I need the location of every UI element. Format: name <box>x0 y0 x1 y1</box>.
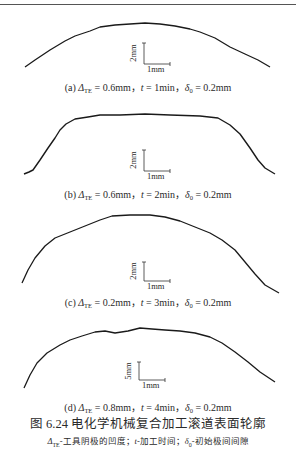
caption-a-delta-te-sub: TE <box>84 87 92 94</box>
caption-b: (b) ΔTE = 0.6mm，t = 2min，δ0 = 0.2mm <box>0 186 296 201</box>
profile-curve-b <box>24 114 275 174</box>
caption-c-t-value: = 3min， <box>144 297 185 308</box>
note-part3: -初始极间间隙 <box>192 436 249 446</box>
scale-label-vertical-b: 2mm <box>128 151 138 168</box>
figure-note: ΔTE-工具阴极的凹度；t-加工时间；δ0-初始极间间隙 <box>0 434 296 448</box>
scale-label-horizontal-b: 1mm <box>147 171 164 181</box>
caption-c-delta0-value: = 0.2mm <box>193 297 232 308</box>
caption-b-delta0-value: = 0.2mm <box>193 189 232 200</box>
profile-curve-a <box>25 23 270 67</box>
caption-d-t-value: = 4min， <box>144 402 185 413</box>
scale-label-horizontal-d: 1mm <box>142 380 159 390</box>
caption-b-delta-te-value: = 0.6mm， <box>92 189 141 200</box>
scale-label-horizontal-a: 1mm <box>147 64 164 74</box>
panel-b-graphics <box>24 114 275 174</box>
caption-d: (d) ΔTE = 0.8mm，t = 4min，δ0 = 0.2mm <box>0 399 296 414</box>
scale-label-vertical-a: 2mm <box>128 44 138 61</box>
caption-a: (a) ΔTE = 0.6mm，t = 1min，δ0 = 0.2mm <box>0 79 296 94</box>
panel-d-graphics <box>24 328 275 388</box>
scale-bar-b <box>142 150 170 173</box>
panel-a-graphics <box>25 23 270 67</box>
note-part1: -工具阴极的凹度； <box>60 436 135 446</box>
caption-d-label: (d) <box>64 402 76 413</box>
scale-bar-d <box>137 362 165 382</box>
caption-a-t-value: = 1min， <box>144 82 185 93</box>
scale-label-vertical-c: 2mm <box>128 262 138 279</box>
caption-c-delta-te-sub: TE <box>84 302 92 309</box>
caption-d-delta-te-value: = 0.8mm， <box>92 402 141 413</box>
caption-b-t-value: = 2min， <box>144 189 185 200</box>
note-part2: -加工时间； <box>137 436 185 446</box>
caption-c-label: (c) <box>65 297 76 308</box>
note-delta-te-sub: TE <box>52 442 59 448</box>
caption-a-delta-te-value: = 0.6mm， <box>92 82 141 93</box>
caption-d-delta0-value: = 0.2mm <box>193 402 232 413</box>
caption-a-delta0-value: = 0.2mm <box>193 82 232 93</box>
caption-b-label: (b) <box>64 189 76 200</box>
caption-c: (c) ΔTE = 0.2mm，t = 3min，δ0 = 0.2mm <box>0 294 296 309</box>
profile-curve-d <box>24 328 275 388</box>
scale-label-horizontal-c: 1mm <box>147 281 164 291</box>
caption-c-delta-te-value: = 0.2mm， <box>92 297 141 308</box>
scale-bar-a <box>142 43 170 66</box>
scale-bar-c <box>142 262 170 283</box>
figure-title: 图 6.24 电化学机械复合加工滚道表面轮廓 <box>0 413 296 432</box>
caption-a-label: (a) <box>65 82 76 93</box>
scale-label-vertical-d: 5mm <box>123 362 133 379</box>
